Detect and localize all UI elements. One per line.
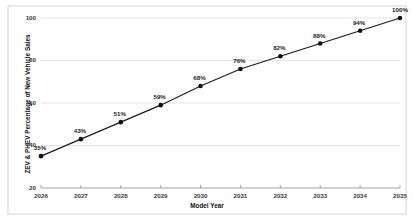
x-axis-tick-label: 2035 <box>393 192 407 199</box>
y-axis-title: ZEV & PHEV Percentage of New Vehicle Sal… <box>24 34 32 174</box>
x-axis-tick-label: 2031 <box>234 192 248 199</box>
x-axis-tick-label: 2034 <box>353 192 367 199</box>
data-point-label: 59% <box>153 93 166 100</box>
x-axis-tick-label: 2030 <box>194 192 208 199</box>
data-point-marker <box>198 84 203 89</box>
data-point-label: 94% <box>353 19 366 26</box>
data-point-marker <box>39 154 44 159</box>
data-point-marker <box>158 103 163 108</box>
line-chart: 20406080100 2026202720282029203020312032… <box>0 0 414 222</box>
x-axis-tick-label: 2032 <box>273 192 287 199</box>
data-point-marker <box>318 41 323 46</box>
data-point-marker <box>278 54 283 59</box>
x-axis-tick-label: 2033 <box>313 192 327 199</box>
data-point-label: 76% <box>233 57 246 64</box>
chart-container: 20406080100 2026202720282029203020312032… <box>0 0 414 222</box>
data-point-label: 68% <box>193 74 206 81</box>
data-point-label: 43% <box>74 127 87 134</box>
data-point-marker <box>79 137 84 142</box>
x-axis-tick-label: 2026 <box>34 192 48 199</box>
data-point-marker <box>118 120 123 125</box>
data-point-label: 82% <box>273 44 286 51</box>
data-point-marker <box>358 28 363 33</box>
x-axis-tick-label: 2027 <box>74 192 88 199</box>
data-point-label: 88% <box>313 32 326 39</box>
x-axis-tick-label: 2029 <box>154 192 168 199</box>
data-point-label: 100% <box>392 6 408 13</box>
x-axis-title: Model Year <box>190 202 224 209</box>
data-point-label: 35% <box>34 144 47 151</box>
data-point-label: 51% <box>114 110 127 117</box>
data-point-marker <box>238 67 243 72</box>
y-axis-tick-label: 20 <box>29 184 36 191</box>
y-axis-tick-label: 100 <box>26 14 37 21</box>
data-point-marker <box>398 16 403 21</box>
x-axis-tick-label: 2028 <box>114 192 128 199</box>
